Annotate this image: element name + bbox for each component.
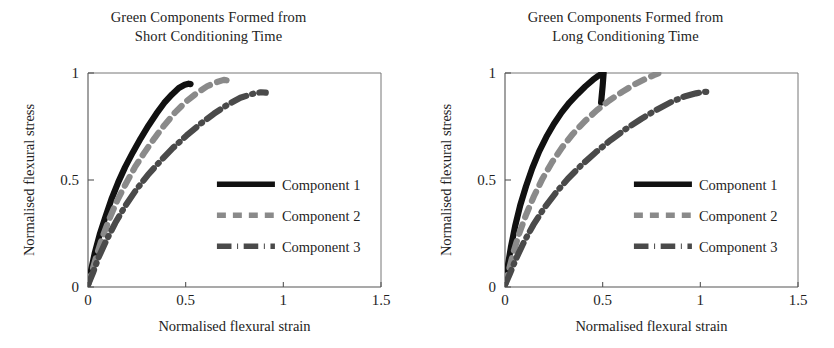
- y-tick-label: 1: [72, 65, 80, 81]
- legend-label: Component 2: [699, 208, 778, 224]
- x-tick-label: 1.5: [372, 292, 391, 308]
- plot-area-right: 00.511.500.51Normalised flexural strainN…: [417, 0, 834, 348]
- x-tick-label: 0.5: [176, 292, 195, 308]
- legend-label: Component 2: [282, 208, 361, 224]
- y-axis-title: Normalised flexural stress: [438, 104, 454, 257]
- y-axis-title: Normalised flexural stress: [21, 104, 37, 257]
- y-tick-label: 0: [489, 279, 497, 295]
- x-axis-title: Normalised flexural strain: [158, 318, 311, 334]
- y-tick-label: 0: [72, 279, 80, 295]
- legend: Component 1Component 2Component 3: [634, 177, 778, 255]
- x-tick-label: 0.5: [593, 292, 612, 308]
- legend-label: Component 3: [282, 239, 361, 255]
- x-tick-label: 1.5: [789, 292, 808, 308]
- legend: Component 1Component 2Component 3: [217, 177, 361, 255]
- series-line-component-3: [505, 92, 710, 285]
- panel-long-conditioning: Green Components Formed from Long Condit…: [417, 0, 834, 348]
- x-tick-label: 0: [84, 292, 92, 308]
- x-tick-label: 1: [697, 292, 705, 308]
- legend-label: Component 1: [699, 177, 778, 193]
- x-tick-label: 0: [501, 292, 509, 308]
- plot-area-left: 00.511.500.51Normalised flexural strainN…: [0, 0, 417, 348]
- x-tick-label: 1: [280, 292, 288, 308]
- figure-two-panel-stress-strain: Green Components Formed from Short Condi…: [0, 0, 834, 348]
- x-axis-title: Normalised flexural strain: [575, 318, 728, 334]
- y-tick-label: 0.5: [60, 172, 79, 188]
- series-group: [505, 73, 710, 285]
- y-tick-label: 1: [489, 65, 497, 81]
- panel-short-conditioning: Green Components Formed from Short Condi…: [0, 0, 417, 348]
- legend-label: Component 3: [699, 239, 778, 255]
- legend-label: Component 1: [282, 177, 361, 193]
- y-tick-label: 0.5: [477, 172, 496, 188]
